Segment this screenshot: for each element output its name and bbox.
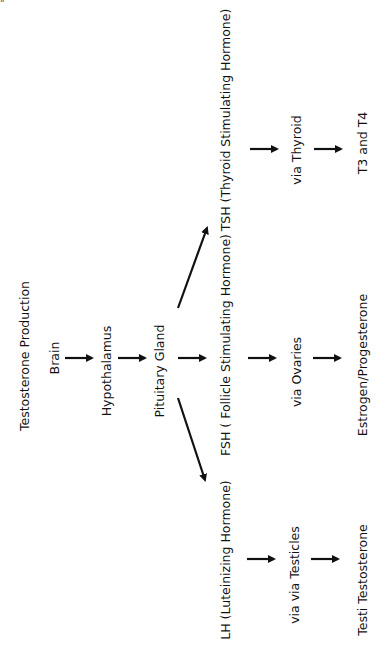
- node-via-ovaries: via Ovaries: [290, 337, 304, 407]
- node-via-testicles: via via Testicles: [288, 526, 302, 624]
- diagram-title: Testosterone Production: [18, 281, 32, 431]
- node-tsh: TSH (Thyroid Stimulating Hormone): [219, 9, 233, 232]
- node-brain: Brain: [48, 342, 62, 375]
- node-estrogen-progesterone: Estrogen/Progesterone: [356, 294, 370, 436]
- node-pituitary-gland: Pituitary Gland: [153, 325, 167, 418]
- node-t3-t4: T3 and T4: [356, 112, 370, 175]
- node-testosterone: Testi Testosterone: [356, 524, 370, 636]
- node-via-thyroid: via Thyroid: [290, 115, 304, 184]
- arrow-pituitary-to-tsh: [178, 228, 207, 308]
- arrow-layer: [0, 0, 388, 658]
- arrow-pituitary-to-lh: [178, 398, 205, 480]
- node-hypothalamus: Hypothalamus: [100, 326, 114, 417]
- node-lh: LH (Luteinizing Hormone): [219, 480, 233, 640]
- node-fsh: FSH ( Follicle Stimulating Hormone): [219, 234, 233, 456]
